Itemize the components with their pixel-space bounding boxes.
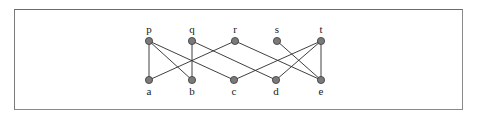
node-label-d: d	[273, 85, 279, 97]
node-label-e: e	[319, 85, 324, 97]
node-a	[145, 76, 152, 83]
node-r	[231, 37, 238, 44]
node-label-p: p	[146, 23, 152, 35]
node-label-a: a	[147, 85, 152, 97]
node-label-b: b	[189, 85, 195, 97]
node-label-c: c	[232, 85, 237, 97]
node-t	[317, 37, 324, 44]
node-b	[188, 76, 195, 83]
edge-q-d	[192, 41, 276, 80]
node-c	[230, 76, 237, 83]
node-e	[317, 76, 324, 83]
labels-group: pqrstabcde	[146, 23, 323, 97]
node-label-t: t	[319, 23, 322, 35]
edges-group	[149, 41, 321, 80]
node-q	[188, 37, 195, 44]
node-label-q: q	[189, 23, 195, 35]
bipartite-graph: pqrstabcde	[0, 0, 480, 121]
edge-p-b	[149, 41, 192, 80]
node-d	[272, 76, 279, 83]
node-p	[145, 37, 152, 44]
node-s	[273, 37, 280, 44]
node-label-s: s	[275, 23, 279, 35]
node-label-r: r	[233, 23, 237, 35]
